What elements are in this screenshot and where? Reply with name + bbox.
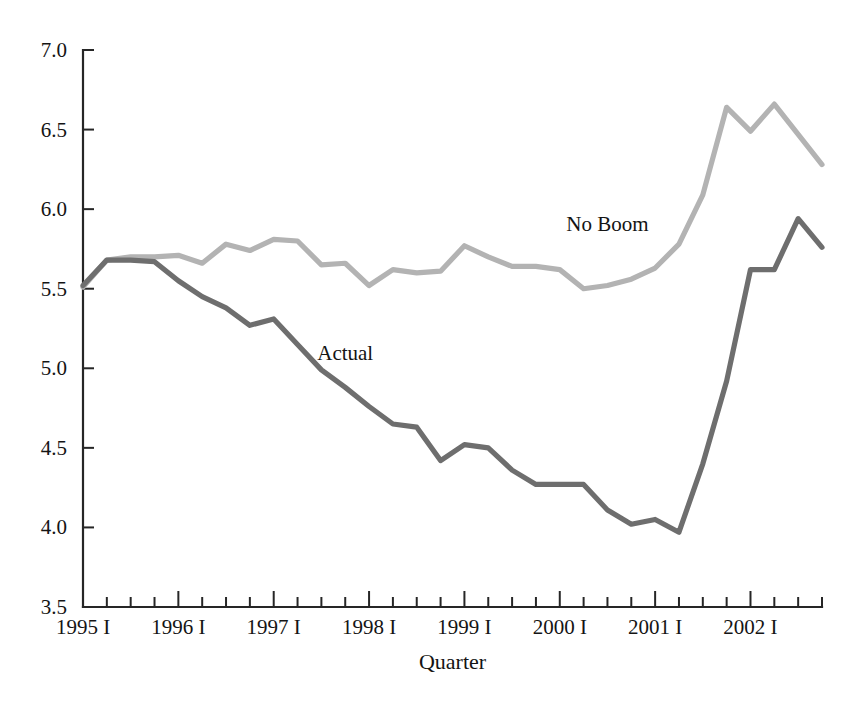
data-line-actual (83, 219, 822, 533)
y-tick-label: 4.5 (41, 436, 67, 460)
y-axis: 3.54.04.55.05.56.06.57.0 (41, 38, 94, 619)
y-tick-label: 5.5 (41, 277, 67, 301)
data-line-no-boom (83, 104, 822, 289)
x-tick-label: 2001 I (628, 615, 682, 639)
x-tick-label: 1998 I (342, 615, 396, 639)
y-tick-label: 7.0 (41, 38, 67, 62)
y-tick-label: 4.0 (41, 515, 67, 539)
line-chart-canvas: 3.54.04.55.05.56.06.57.0 1995 I1996 I199… (0, 0, 854, 708)
x-tick-label: 1996 I (151, 615, 205, 639)
x-tick-label: 2002 I (723, 615, 777, 639)
x-tick-label: 1997 I (247, 615, 301, 639)
x-tick-label: 1995 I (56, 615, 110, 639)
x-tick-label: 2000 I (533, 615, 587, 639)
x-tick-label: 1999 I (437, 615, 491, 639)
data-series-group (83, 104, 822, 532)
y-tick-label: 5.0 (41, 356, 67, 380)
y-tick-label: 6.5 (41, 118, 67, 142)
series-label-actual: Actual (317, 341, 373, 365)
y-tick-label: 6.0 (41, 197, 67, 221)
series-label-no-boom: No Boom (566, 212, 648, 236)
chart-figure: 3.54.04.55.05.56.06.57.0 1995 I1996 I199… (0, 0, 854, 708)
x-axis: 1995 I1996 I1997 I1998 I1999 I2000 I2001… (56, 591, 822, 639)
x-axis-title: Quarter (419, 649, 487, 674)
